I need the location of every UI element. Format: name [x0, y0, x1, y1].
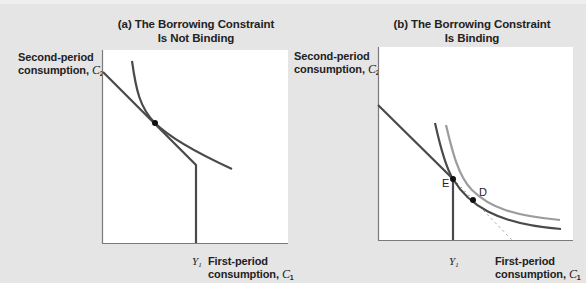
- panel-a-optimum-point: [152, 120, 158, 126]
- panel-b-indifference-curve-desired: [446, 125, 560, 220]
- panel-b-point-e: [450, 176, 456, 182]
- panel-a-budget-line: [103, 72, 196, 243]
- panel-a-indifference-curve: [132, 61, 232, 169]
- panel-b-point-d: [470, 197, 476, 203]
- panel-b-budget-line: [378, 105, 453, 240]
- diagram-canvas: [0, 0, 586, 283]
